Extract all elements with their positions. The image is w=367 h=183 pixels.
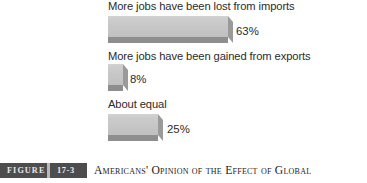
bar-value-imports: 63%: [236, 25, 259, 37]
bar-bevel-imports: [228, 16, 233, 43]
bar-label-exports: More jobs have been gained from exports: [108, 50, 311, 63]
bar-face-about-equal: [108, 114, 158, 135]
bar-about-equal: [108, 114, 163, 143]
figure-caption: FIGURE 17-3 Americans' Opinion of the Ef…: [0, 161, 367, 183]
bar-shadow-about-equal: [108, 135, 158, 141]
bar-label-imports: More jobs have been lost from imports: [108, 0, 295, 13]
bar-shadow-imports: [108, 37, 228, 43]
figure-caption-number: 17-3: [57, 165, 75, 176]
bar-shadow-exports: [108, 85, 123, 91]
bar-bevel-about-equal: [158, 114, 163, 141]
bar-face-exports: [108, 64, 123, 85]
bar-bevel-exports: [123, 64, 128, 91]
bar-imports: [108, 16, 232, 45]
figure-caption-title: Americans' Opinion of the Effect of Glob…: [94, 163, 311, 178]
bar-face-imports: [108, 16, 228, 37]
bar-exports: [108, 64, 128, 93]
bar-label-about-equal: About equal: [108, 98, 167, 111]
bar-value-about-equal: 25%: [167, 123, 190, 135]
bar-chart: More jobs have been lost from imports 63…: [0, 0, 367, 152]
figure-caption-word: FIGURE: [7, 165, 45, 176]
bar-value-exports: 8%: [130, 73, 146, 85]
figure-caption-divider: [47, 163, 50, 178]
